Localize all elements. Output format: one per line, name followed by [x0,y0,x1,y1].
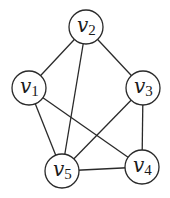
nodes-group: v1v2v3v4v5 [12,10,160,188]
graph-diagram: v1v2v3v4v5 [0,0,170,198]
node-subscript: 4 [144,162,152,178]
edges-group [29,27,143,171]
node-subscript: 5 [64,166,72,182]
node-subscript: 3 [145,83,153,99]
node-v3: v3 [126,71,160,105]
node-v2: v2 [69,10,103,44]
node-v5: v5 [45,154,79,188]
node-v4: v4 [125,150,159,184]
edge-v1-v4 [29,88,142,167]
node-subscript: 1 [31,83,39,99]
node-v1: v1 [12,71,46,105]
node-subscript: 2 [88,22,96,38]
